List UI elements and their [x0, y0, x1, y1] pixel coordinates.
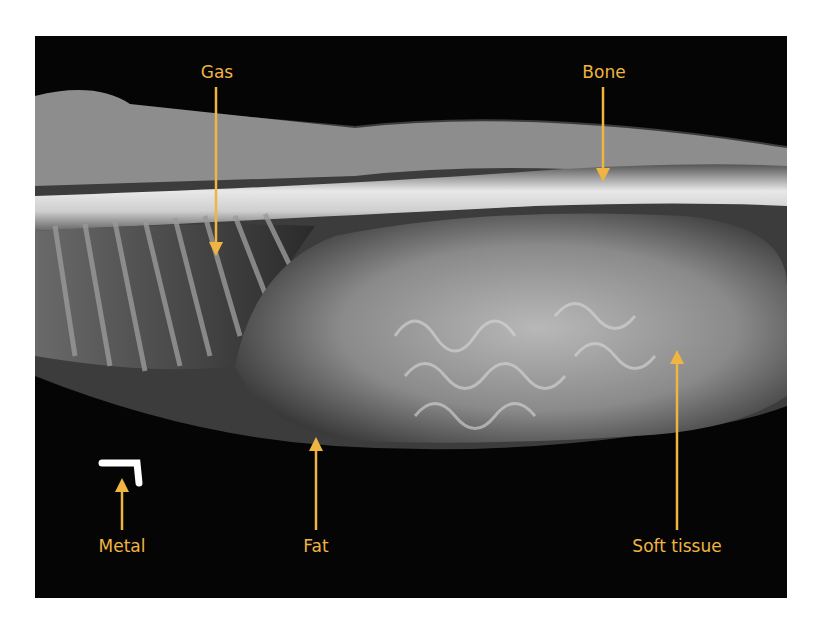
label-fat: Fat	[303, 536, 328, 556]
annotation-arrows	[0, 0, 820, 622]
label-metal: Metal	[99, 536, 146, 556]
label-gas: Gas	[201, 62, 233, 82]
label-soft-tissue: Soft tissue	[632, 536, 721, 556]
label-bone: Bone	[582, 62, 625, 82]
